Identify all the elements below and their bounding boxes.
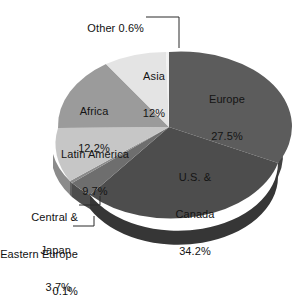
slice-label-asia-name: Asia [131, 70, 177, 82]
leader-line-other [146, 17, 179, 48]
slice-label-us-canada-line2: Canada [161, 208, 229, 220]
slice-label-japan: Japan 3.7% [0, 219, 71, 299]
slice-label-europe-value: 27.5% [196, 130, 258, 142]
slice-label-other-text: Other 0.6% [87, 22, 144, 34]
slice-label-us-canada: U.S. & Canada 34.2% [161, 146, 229, 281]
slice-label-africa-name: Africa [66, 105, 122, 117]
slice-label-europe-name: Europe [196, 93, 258, 105]
slice-label-asia-value: 12% [131, 107, 177, 119]
slice-label-latin-america-name: Latin America [49, 148, 141, 160]
slice-label-japan-name: Japan [0, 244, 71, 256]
slice-label-other: Other 0.6% [60, 10, 144, 47]
slice-label-us-canada-line1: U.S. & [161, 171, 229, 183]
slice-label-japan-value: 3.7% [0, 281, 71, 293]
slice-label-us-canada-value: 34.2% [161, 245, 229, 257]
